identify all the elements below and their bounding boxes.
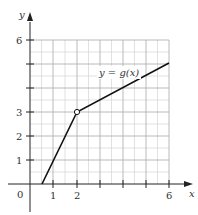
x-axis-arrow-icon <box>184 181 193 187</box>
x-tick-label-6: 6 <box>166 190 172 201</box>
origin-label: 0 <box>17 189 23 200</box>
y-tick-label-6: 6 <box>16 35 22 46</box>
tick-marks <box>26 40 169 188</box>
x-tick-label-2: 2 <box>74 190 80 201</box>
y-axis-arrow-icon <box>27 12 33 21</box>
y-tick-label-1: 1 <box>16 155 22 166</box>
open-circle-marker <box>74 109 79 114</box>
y-axis-label: y <box>18 9 25 20</box>
g-curve <box>42 63 169 184</box>
x-tick-label-1: 1 <box>50 190 56 201</box>
y-tick-label-2: 2 <box>16 131 22 142</box>
grid-major <box>30 40 169 184</box>
graph-figure: y x 0 6 3 2 1 1 2 6 y = g(x) <box>0 0 198 215</box>
function-label: y = g(x) <box>98 67 139 78</box>
x-axis-label: x <box>189 188 195 199</box>
y-tick-label-3: 3 <box>16 107 22 118</box>
